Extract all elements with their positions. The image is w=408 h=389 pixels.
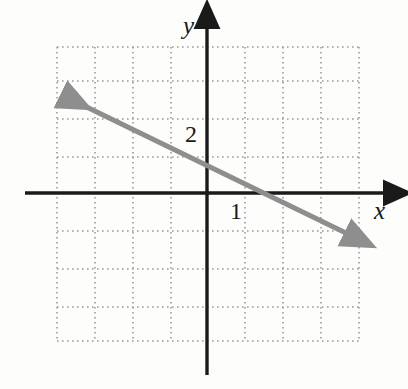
graph-figure: y x 2 1 bbox=[0, 0, 408, 389]
coordinate-plane-svg bbox=[0, 0, 408, 389]
x-axis-label: x bbox=[374, 198, 385, 223]
axes bbox=[25, 26, 386, 375]
x-intercept-label: 1 bbox=[230, 199, 242, 223]
y-axis-label: y bbox=[183, 13, 194, 38]
y-intercept-label: 2 bbox=[185, 122, 197, 146]
